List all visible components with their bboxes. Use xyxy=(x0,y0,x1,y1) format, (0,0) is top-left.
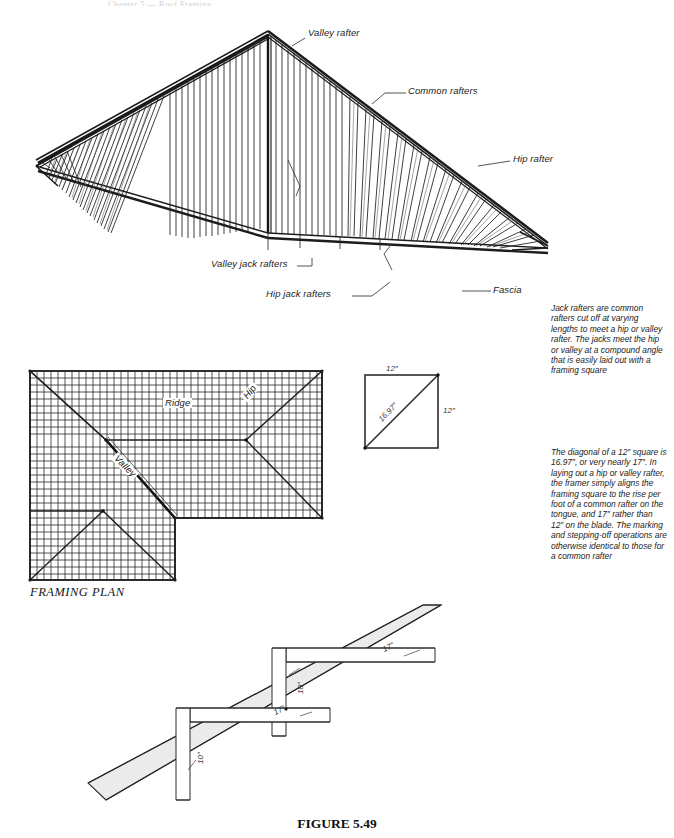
note-diagonal: The diagonal of a 12″ square is 16.97″, … xyxy=(551,447,667,561)
dim-square-right: 12″ xyxy=(443,406,455,415)
figure-caption-text: FIGURE 5.49 xyxy=(297,816,377,831)
note-jack-rafters: Jack rafters are common rafters cut off … xyxy=(551,303,667,376)
label-valley-jack-rafters: Valley jack rafters xyxy=(211,259,288,269)
label-ridge: Ridge xyxy=(163,398,192,408)
framing-plan-caption: FRAMING PLAN xyxy=(30,585,125,600)
dim-square-top: 12″ xyxy=(386,364,398,373)
dim-square-diagonal: 16.97″ xyxy=(376,400,400,424)
stepping-off-diagram xyxy=(0,0,674,838)
page-header-ghost: Chapter 5 — Roof Framing xyxy=(108,0,212,6)
label-hip-jack-rafters: Hip jack rafters xyxy=(266,289,331,299)
figure-caption: FIGURE 5.49 xyxy=(0,816,674,832)
framing-plan-drawing xyxy=(0,0,674,838)
label-hip: Hip xyxy=(240,382,260,403)
label-valley: Valley xyxy=(111,452,139,480)
label-valley-rafter: Valley rafter xyxy=(308,28,360,38)
dim-step-rise-lower: 10″ xyxy=(196,752,205,764)
label-common-rafters: Common rafters xyxy=(408,86,478,96)
square-diagonal-diagram xyxy=(0,0,674,838)
label-hip-rafter: Hip rafter xyxy=(513,154,553,164)
dim-step-run-upper: 17″ xyxy=(381,641,396,654)
figure-page: Chapter 5 — Roof Framing xyxy=(0,0,674,838)
label-fascia: Fascia xyxy=(493,285,522,295)
dim-step-run-lower: 17″ xyxy=(272,704,287,717)
isometric-roof-drawing xyxy=(0,0,674,838)
dim-step-rise-upper: 10″ xyxy=(296,682,305,694)
